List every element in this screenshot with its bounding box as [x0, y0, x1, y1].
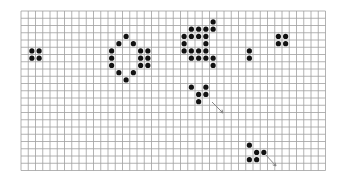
live-cell-dot [189, 27, 194, 32]
live-cell-dot [109, 63, 114, 68]
live-cell-dot [211, 56, 216, 61]
arrow-shaft [212, 102, 223, 113]
live-cell-dot [124, 34, 129, 39]
live-cell-dot [247, 56, 252, 61]
live-cell-dot [203, 34, 208, 39]
live-cell-dot [109, 56, 114, 61]
live-cell-dot [203, 27, 208, 32]
live-cell-dot [283, 41, 288, 46]
live-cell-dot [131, 41, 136, 46]
live-cell-dot [203, 56, 208, 61]
live-cell-dot [29, 56, 34, 61]
live-cell-dot [138, 56, 143, 61]
live-cell-dot [196, 92, 201, 97]
live-cell-dot [211, 63, 216, 68]
live-cell-dot [247, 157, 252, 162]
live-cell-dot [182, 48, 187, 53]
live-cell-dot [182, 34, 187, 39]
live-cell-dot [276, 34, 281, 39]
live-cell-dot [109, 48, 114, 53]
live-cell-dot [196, 27, 201, 32]
live-cell-dot [116, 41, 121, 46]
live-cell-dot [182, 41, 187, 46]
live-cell-dot [189, 85, 194, 90]
life-grid [0, 0, 348, 178]
live-cell-dot [145, 56, 150, 61]
live-cell-dot [37, 56, 42, 61]
live-cell-dot [247, 48, 252, 53]
live-cell-dot [145, 48, 150, 53]
live-cell-dot [196, 48, 201, 53]
live-cell-dot [276, 41, 281, 46]
live-cell-dot [131, 70, 136, 75]
live-cell-dot [138, 48, 143, 53]
live-cell-dot [189, 48, 194, 53]
live-cell-dot [254, 150, 259, 155]
live-cell-dot [189, 34, 194, 39]
live-cell-dot [189, 56, 194, 61]
live-cell-dot [29, 48, 34, 53]
live-cell-dot [211, 19, 216, 24]
live-cell-dot [116, 70, 121, 75]
live-cell-dot [196, 99, 201, 104]
live-cell-dot [203, 48, 208, 53]
live-cell-dot [283, 34, 288, 39]
live-cell-dot [196, 56, 201, 61]
live-cell-dot [145, 63, 150, 68]
live-cell-dot [196, 34, 201, 39]
live-cell-dot [138, 63, 143, 68]
live-cell-dot [254, 157, 259, 162]
live-cell-dot [203, 92, 208, 97]
live-cell-dot [247, 143, 252, 148]
live-cell-dot [203, 41, 208, 46]
live-cell-dot [203, 85, 208, 90]
live-cell-dot [211, 27, 216, 32]
live-cell-dot [37, 48, 42, 53]
live-cell-dot [124, 77, 129, 82]
